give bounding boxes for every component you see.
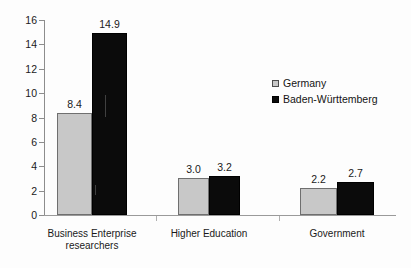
bar-germany [300, 188, 337, 215]
bar-value-label: 3.2 [203, 162, 246, 173]
y-axis-tick-label: 2 [3, 186, 37, 197]
germany-swatch-icon [272, 80, 279, 87]
bar-value-label: 14.9 [86, 19, 133, 30]
y-axis-tick-label: 4 [3, 161, 37, 172]
x-axis-line [44, 215, 396, 216]
legend-label-baden-wuerttemberg: Baden-Württemberg [283, 94, 378, 105]
bar-baden-wuerttemberg [337, 182, 374, 215]
x-axis-group-separator [279, 216, 280, 221]
y-axis-tick-label: 6 [3, 137, 37, 148]
y-axis-tick-label: 14 [3, 39, 37, 50]
bar-germany [57, 113, 92, 215]
y-axis-tick-label: 8 [3, 113, 37, 124]
legend-label-germany: Germany [283, 78, 326, 89]
bar-value-label: 2.7 [331, 168, 380, 179]
bar-chart: 0246810121416 8.414.93.03.22.22.7 Busine… [0, 0, 411, 268]
baden-wuerttemberg-swatch-icon [272, 96, 279, 103]
bar-germany [178, 178, 209, 215]
bar-value-label: 8.4 [51, 99, 98, 110]
plot-area: 8.414.93.03.22.22.7 [44, 20, 396, 215]
x-axis-category-label: Government [265, 228, 409, 240]
x-axis-category-label: Business Enterprise researchers [22, 228, 162, 251]
x-axis-group-separator [156, 216, 157, 221]
x-axis-category-label: Higher Education [143, 228, 275, 240]
y-axis-tick-label: 16 [3, 15, 37, 26]
y-axis-tick-label: 0 [3, 210, 37, 221]
chart-legend: Germany Baden-Württemberg [272, 77, 378, 109]
bar-baden-wuerttemberg [209, 176, 240, 215]
bar-baden-wuerttemberg [92, 33, 127, 215]
y-axis-tick-label: 10 [3, 88, 37, 99]
legend-item-baden-wuerttemberg: Baden-Württemberg [272, 93, 378, 106]
legend-item-germany: Germany [272, 77, 378, 90]
y-axis-tick-label: 12 [3, 64, 37, 75]
